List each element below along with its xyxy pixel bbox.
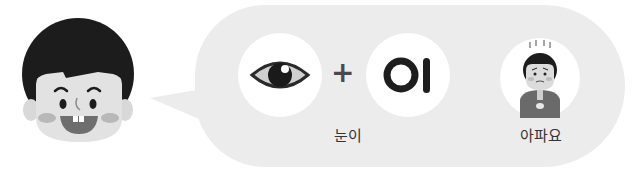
eye-icon [238,33,322,117]
word-label: 눈이 [318,124,378,145]
syllable-i-glyph [366,33,450,117]
plus-sign: + [331,56,354,89]
boy-face-icon [18,18,138,142]
sick-child-icon [500,38,580,118]
meaning-label: 아파요 [505,124,577,145]
sick-child-circle [500,38,580,118]
eye-circle [238,33,322,117]
syllable-circle [366,33,450,117]
